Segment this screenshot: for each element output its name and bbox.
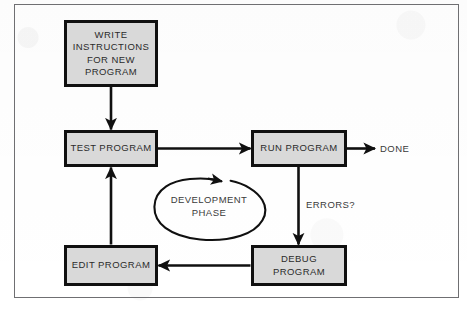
node-test-program[interactable]: TEST PROGRAM (64, 130, 158, 167)
edge-label-errors: ERRORS? (306, 199, 355, 210)
node-debug-program-label: DEBUG PROGRAM (273, 253, 325, 278)
node-edit-program[interactable]: EDIT PROGRAM (64, 245, 158, 286)
node-run-program-label: RUN PROGRAM (260, 142, 337, 155)
cycle-label-development-phase: DEVELOPMENT PHASE (153, 194, 265, 219)
node-write-instructions-label: WRITE INSTRUCTIONS FOR NEW PROGRAM (73, 29, 150, 79)
node-run-program[interactable]: RUN PROGRAM (251, 130, 347, 167)
node-write-instructions[interactable]: WRITE INSTRUCTIONS FOR NEW PROGRAM (64, 20, 158, 87)
diagram-canvas: WRITE INSTRUCTIONS FOR NEW PROGRAM TEST … (0, 0, 467, 313)
terminal-label-done: DONE (380, 143, 409, 154)
node-edit-program-label: EDIT PROGRAM (72, 259, 151, 272)
node-test-program-label: TEST PROGRAM (70, 142, 151, 155)
node-debug-program[interactable]: DEBUG PROGRAM (251, 245, 347, 286)
cycle-arrow-head-stub (208, 179, 222, 182)
